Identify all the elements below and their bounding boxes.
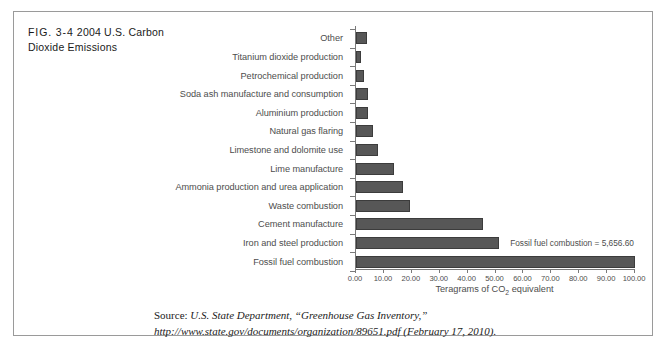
y-axis-tick — [350, 122, 355, 123]
x-axis-tick — [550, 269, 551, 273]
x-axis-tick-label: 0.00 — [348, 274, 362, 283]
source-caption-body: U.S. State Department, “Greenhouse Gas I… — [154, 309, 496, 337]
bar — [356, 163, 394, 175]
category-label: Lime manufacture — [270, 160, 343, 178]
x-axis-tick — [439, 269, 440, 273]
category-label: Iron and steel production — [243, 234, 343, 252]
x-axis-tick — [411, 269, 412, 273]
source-caption: Source: U.S. State Department, “Greenhou… — [154, 308, 624, 339]
x-axis-tick — [495, 269, 496, 273]
bar — [356, 256, 635, 268]
x-axis-tick — [383, 269, 384, 273]
category-label: Soda ash manufacture and consumption — [180, 85, 343, 103]
bar — [356, 51, 361, 63]
x-axis-tick-label: 100.00 — [623, 274, 646, 283]
category-label: Titanium dioxide production — [232, 48, 343, 66]
category-label: Natural gas flaring — [269, 122, 343, 140]
x-axis-tick-label: 10.00 — [374, 274, 393, 283]
x-axis-tick — [467, 269, 468, 273]
bar — [356, 32, 367, 44]
y-axis-tick — [350, 29, 355, 30]
x-axis-tick-label: 60.00 — [513, 274, 532, 283]
bar — [356, 218, 483, 230]
y-axis-tick — [350, 141, 355, 142]
y-axis-tick — [350, 178, 355, 179]
y-axis-tick — [350, 159, 355, 160]
figure-frame: FIG. 3-4 2004 U.S. Carbon Dioxide Emissi… — [13, 11, 653, 336]
x-axis-tick-label: 20.00 — [402, 274, 421, 283]
bar — [356, 125, 373, 137]
x-axis-tick-label: 50.00 — [485, 274, 504, 283]
bar — [356, 107, 368, 119]
source-caption-lead: Source: — [154, 309, 188, 321]
x-axis-tick — [355, 269, 356, 273]
y-axis-tick — [350, 252, 355, 253]
category-label: Aluminium production — [256, 104, 343, 122]
x-axis-tick — [578, 269, 579, 273]
category-label: Petrochemical production — [241, 67, 343, 85]
figure-number: FIG. 3-4 — [28, 26, 74, 38]
bar — [356, 70, 364, 82]
category-label: Ammonia production and urea application — [175, 178, 343, 196]
y-axis-tick — [350, 85, 355, 86]
x-axis-tick-label: 90.00 — [597, 274, 616, 283]
y-axis-tick — [350, 103, 355, 104]
y-axis-tick — [350, 215, 355, 216]
bar — [356, 200, 410, 212]
y-axis-tick — [350, 234, 355, 235]
chart-axes-and-bars: Teragrams of CO2 equivalent Fossil fuel … — [355, 26, 640, 274]
category-label: Other — [320, 29, 343, 47]
bar-annotation-label: Fossil fuel combustion = 5,656.60 — [510, 238, 634, 248]
x-axis-tick-label: 40.00 — [457, 274, 476, 283]
bar — [356, 181, 403, 193]
y-axis-tick — [350, 48, 355, 49]
y-axis-tick — [350, 66, 355, 67]
x-axis-tick — [606, 269, 607, 273]
x-axis-tick — [522, 269, 523, 273]
category-label: Limestone and dolomite use — [229, 141, 343, 159]
chart-plot: OtherTitanium dioxide productionPetroche… — [136, 26, 644, 288]
y-axis-tick — [350, 196, 355, 197]
bar — [356, 144, 378, 156]
category-label: Fossil fuel combustion — [253, 253, 343, 271]
x-axis-tick-label: 30.00 — [429, 274, 448, 283]
category-label: Cement manufacture — [258, 215, 343, 233]
x-axis-tick — [634, 269, 635, 273]
bar — [356, 237, 499, 249]
x-axis-tick-label: 70.00 — [541, 274, 560, 283]
category-axis-labels: OtherTitanium dioxide productionPetroche… — [136, 26, 349, 274]
x-axis-title: Teragrams of CO2 equivalent — [355, 284, 634, 296]
category-label: Waste combustion — [269, 197, 343, 215]
x-axis-tick-label: 80.00 — [569, 274, 588, 283]
bar — [356, 88, 368, 100]
